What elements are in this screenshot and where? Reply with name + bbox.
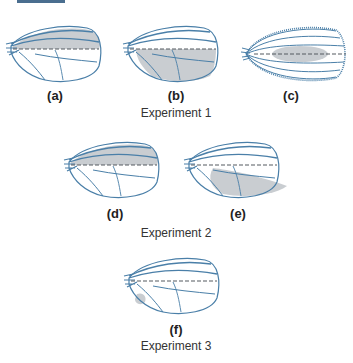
header-bar [17,0,65,3]
experiment-3-label: Experiment 3 [141,339,212,353]
panel-label-c: (c) [283,88,299,103]
panel-label-b: (b) [168,88,185,103]
wing-d [63,138,163,202]
experiment-1-label: Experiment 1 [141,106,212,120]
wing-f [123,254,223,320]
panel-label-f: (f) [170,322,183,337]
wing-c [240,22,348,86]
experiment-2-label: Experiment 2 [141,226,212,240]
wing-e [183,138,293,202]
panel-label-d: (d) [107,206,124,221]
wing-a [5,22,105,86]
wing-b [122,22,222,86]
panel-label-a: (a) [47,88,63,103]
panel-label-e: (e) [230,206,246,221]
